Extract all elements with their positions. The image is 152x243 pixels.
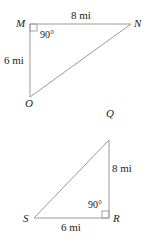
- triangle-mno: M N O 8 mi 6 mi 90°: [4, 9, 142, 109]
- side-label-qr: 8 mi: [112, 162, 132, 174]
- angle-label-r: 90°: [88, 199, 102, 210]
- right-angle-marker-m: [30, 24, 37, 31]
- angle-label-m: 90°: [40, 29, 54, 40]
- triangles-diagram: M N O 8 mi 6 mi 90° Q R S 8 mi 6 mi 90°: [0, 0, 152, 243]
- right-angle-marker-r: [102, 211, 109, 218]
- vertex-label-n: N: [133, 17, 142, 29]
- side-label-mn: 8 mi: [71, 9, 91, 21]
- vertex-label-o: O: [25, 97, 33, 109]
- vertex-label-m: M: [15, 17, 26, 29]
- vertex-label-s: S: [23, 212, 29, 224]
- vertex-label-r: R: [112, 212, 120, 224]
- vertex-label-q: Q: [106, 107, 114, 119]
- side-label-mo: 6 mi: [4, 54, 24, 66]
- triangle-qrs: Q R S 8 mi 6 mi 90°: [23, 107, 132, 233]
- side-label-sr: 6 mi: [61, 221, 81, 233]
